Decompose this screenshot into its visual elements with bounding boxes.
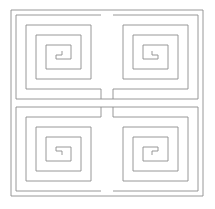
canvas-background [0,0,215,209]
square-spiral-pattern-canvas [0,0,215,209]
pattern-figure: Square Spiral Quadrant Pattern Geometric… [0,0,215,209]
